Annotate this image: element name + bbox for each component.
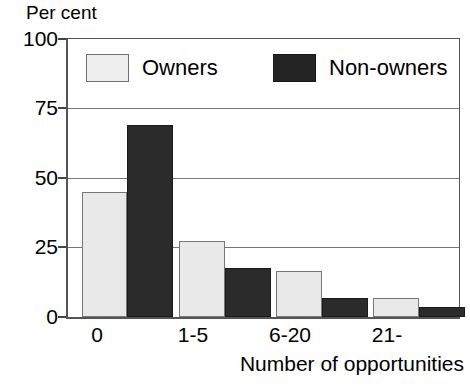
bar-owners-1-5 bbox=[179, 241, 225, 317]
y-axis-title: Per cent bbox=[26, 2, 97, 24]
x-tick-label-0: 0 bbox=[52, 323, 142, 347]
bar-nonowners-1-5 bbox=[225, 268, 271, 317]
y-tick-label-75: 75 bbox=[0, 97, 58, 118]
bar-nonowners-6-20 bbox=[322, 298, 368, 317]
x-tick-label-21: 21- bbox=[342, 323, 432, 347]
y-tick-label-50: 50 bbox=[0, 167, 58, 188]
gridline-75 bbox=[68, 108, 459, 109]
bar-nonowners-0 bbox=[127, 125, 173, 317]
y-tick-label-25: 25 bbox=[0, 236, 58, 257]
bar-owners-0 bbox=[82, 192, 127, 317]
y-tick-label-100: 100 bbox=[0, 28, 58, 49]
x-tick-label-1-5: 1-5 bbox=[148, 323, 238, 347]
bar-owners-6-20 bbox=[276, 271, 322, 317]
bar-owners-21 bbox=[373, 298, 419, 317]
chart-legend: Owners Non-owners bbox=[72, 50, 432, 86]
bar-nonowners-21 bbox=[419, 307, 465, 317]
x-tick-label-6-20: 6-20 bbox=[245, 323, 335, 347]
legend-label-nonowners: Non-owners bbox=[329, 56, 448, 80]
legend-entry-owners: Owners bbox=[86, 50, 218, 86]
legend-swatch-owners-icon bbox=[86, 54, 129, 82]
legend-label-owners: Owners bbox=[142, 56, 218, 80]
legend-swatch-nonowners-icon bbox=[273, 54, 316, 82]
y-tick-label-0: 0 bbox=[0, 306, 58, 327]
legend-entry-nonowners: Non-owners bbox=[273, 50, 448, 86]
x-axis-title: Number of opportunities bbox=[0, 352, 464, 376]
bar-chart-figure: Per cent 100 75 50 25 0 Owners N bbox=[0, 0, 470, 386]
